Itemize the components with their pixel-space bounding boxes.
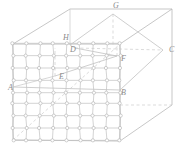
mesh-node	[105, 79, 108, 82]
mesh-node	[78, 66, 81, 69]
mesh-node	[65, 79, 68, 82]
geometry-figure-canvas: GHCDFEAB	[0, 0, 177, 150]
mesh-node	[38, 91, 41, 94]
mesh-node	[25, 42, 28, 45]
mesh-node	[39, 102, 42, 105]
mesh-node	[11, 126, 14, 129]
mesh-node	[65, 102, 68, 105]
edge-A-B	[13, 87, 120, 90]
mesh-node	[51, 42, 54, 45]
mesh-node	[91, 114, 94, 117]
mesh-node	[79, 114, 82, 117]
mesh-node	[118, 139, 121, 142]
mesh-node	[51, 139, 54, 142]
edge-B-C	[120, 50, 163, 90]
mesh-node	[65, 139, 68, 142]
mesh-nodes	[11, 42, 123, 142]
mesh-node	[106, 42, 109, 45]
mesh-node	[11, 66, 14, 69]
mesh-node	[51, 79, 54, 82]
mesh-node	[92, 66, 95, 69]
mesh-node	[52, 91, 55, 94]
mesh-node	[24, 139, 27, 142]
mesh-node	[12, 79, 15, 82]
mesh-node	[52, 126, 55, 129]
mesh-node	[119, 114, 122, 117]
mesh-node	[92, 102, 95, 105]
mesh-node	[25, 91, 28, 94]
mesh-node	[37, 66, 40, 69]
inner-solid	[13, 14, 163, 90]
mesh-node	[118, 66, 121, 69]
mesh-node	[24, 54, 27, 57]
label-G: G	[113, 1, 119, 10]
mesh-node	[65, 54, 68, 57]
mesh-node	[92, 42, 95, 45]
mesh-node	[118, 126, 121, 129]
mesh-node	[25, 126, 28, 129]
mesh-node	[91, 79, 94, 82]
mesh-node	[106, 102, 109, 105]
mesh-node	[51, 102, 54, 105]
mesh-node	[91, 139, 94, 142]
edge-bottom-right-receding	[120, 105, 172, 141]
mesh-node	[79, 139, 82, 142]
mesh-node	[105, 114, 108, 117]
edge-top-left-receding	[13, 9, 70, 44]
mesh-node	[38, 114, 41, 117]
edge-A-E	[13, 76, 55, 87]
mesh-node	[52, 66, 55, 69]
mesh-node	[78, 126, 81, 129]
mesh-node	[65, 114, 68, 117]
mesh-node	[24, 114, 27, 117]
label-C: C	[169, 45, 175, 54]
mesh-node	[24, 79, 27, 82]
mesh-node	[91, 54, 94, 57]
figure-svg: GHCDFEAB	[0, 0, 177, 150]
edge-E-F	[55, 56, 117, 76]
mesh-node	[78, 91, 81, 94]
mesh-node	[37, 126, 40, 129]
edge-G-H	[70, 14, 113, 45]
mesh-node	[105, 139, 108, 142]
mesh-node	[39, 42, 42, 45]
mesh-node	[11, 42, 14, 45]
dash-D-to-C	[75, 48, 163, 50]
label-F: F	[120, 54, 126, 63]
mesh-node	[79, 54, 82, 57]
mesh-node	[25, 66, 28, 69]
mesh-node	[38, 54, 41, 57]
label-B: B	[121, 88, 126, 97]
label-H: H	[62, 33, 70, 42]
mesh-node	[79, 79, 82, 82]
mesh-node	[104, 66, 107, 69]
front-face-mesh	[11, 42, 123, 142]
mesh-node	[25, 102, 28, 105]
mesh-node	[78, 42, 81, 45]
mesh-node	[105, 91, 108, 94]
mesh-node	[118, 102, 121, 105]
mesh-node	[92, 126, 95, 129]
mesh-node	[12, 54, 15, 57]
mesh-node	[52, 114, 55, 117]
vertex-label-group: GHCDFEAB	[7, 1, 175, 97]
mesh-node	[66, 66, 69, 69]
mesh-node	[118, 42, 121, 45]
mesh-node	[66, 126, 69, 129]
edge-top-right-receding	[120, 9, 172, 44]
label-E: E	[58, 72, 64, 81]
label-A: A	[7, 83, 13, 92]
mesh-node	[39, 139, 42, 142]
mesh-node	[65, 42, 68, 45]
mesh-node	[64, 91, 67, 94]
mesh-node	[104, 126, 107, 129]
mesh-node	[78, 102, 81, 105]
mesh-node	[105, 54, 108, 57]
mesh-node	[52, 54, 55, 57]
mesh-node	[92, 91, 95, 94]
mesh-node	[11, 102, 14, 105]
mesh-node	[118, 79, 121, 82]
label-D: D	[69, 45, 76, 54]
mesh-node	[39, 79, 42, 82]
mesh-node	[12, 139, 15, 142]
